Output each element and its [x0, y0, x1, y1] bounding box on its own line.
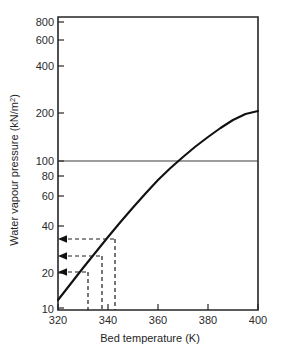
- y-label-600: 600: [36, 34, 54, 46]
- plot-frame: [58, 17, 258, 310]
- vapour-pressure-curve: [58, 111, 258, 300]
- y-axis-title-main: Water vapour pressure (kN/m: [8, 102, 20, 246]
- y-label-40: 40: [42, 220, 54, 232]
- y-axis-title: Water vapour pressure (kN/m2): [8, 94, 21, 246]
- guide-27-arrow-icon: [58, 252, 67, 260]
- y-axis-title-group: Water vapour pressure (kN/m2): [8, 94, 21, 246]
- y-label-60: 60: [42, 190, 54, 202]
- water-vapour-pressure-chart: 800 600 400 200 100 80 60 40 20 10 320 3…: [0, 0, 284, 357]
- y-label-80: 80: [42, 170, 54, 182]
- y-axis-tick-labels: 800 600 400 200 100 80 60 40 20 10: [36, 16, 54, 315]
- x-axis-tick-labels: 320 340 360 380 400: [49, 314, 267, 326]
- y-label-100: 100: [36, 155, 54, 167]
- y-label-20: 20: [42, 267, 54, 279]
- y-axis-ticks: [58, 22, 64, 308]
- x-label-380: 380: [199, 314, 217, 326]
- annotation-guide-20: [58, 268, 88, 310]
- x-label-400: 400: [249, 314, 267, 326]
- chart-figure: 800 600 400 200 100 80 60 40 20 10 320 3…: [0, 0, 284, 357]
- y-label-400: 400: [36, 60, 54, 72]
- x-axis-title: Bed temperature (K): [100, 332, 200, 344]
- guide-20-arrow-icon: [58, 268, 67, 276]
- x-label-360: 360: [149, 314, 167, 326]
- y-label-800: 800: [36, 16, 54, 28]
- x-label-320: 320: [49, 314, 67, 326]
- guide-33-arrow-icon: [58, 235, 67, 243]
- annotation-guide-27: [58, 252, 102, 310]
- y-axis-title-close: ): [8, 94, 20, 98]
- x-label-340: 340: [99, 314, 117, 326]
- y-label-200: 200: [36, 107, 54, 119]
